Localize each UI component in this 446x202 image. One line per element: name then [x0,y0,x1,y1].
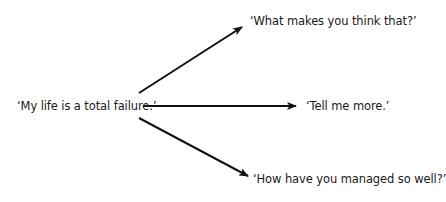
arrow-to-what-makes-you-think [139,27,242,93]
response-what-makes-you-think: ‘What makes you think that?’ [250,14,416,28]
source-statement: ‘My life is a total failure.’ [17,99,156,113]
response-how-have-you-managed: ‘How have you managed so well?’ [253,172,446,186]
response-tell-me-more: ‘Tell me more.’ [306,99,389,113]
arrow-to-how-have-you-managed [139,118,248,176]
